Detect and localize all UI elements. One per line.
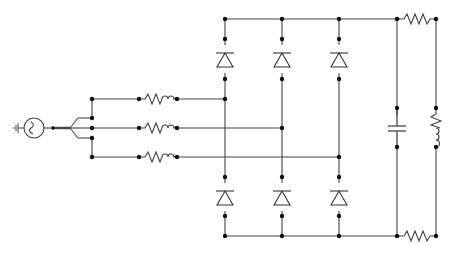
ac-source-icon — [24, 118, 52, 138]
circuit-diagram — [0, 0, 458, 256]
ground-icon — [14, 123, 24, 133]
